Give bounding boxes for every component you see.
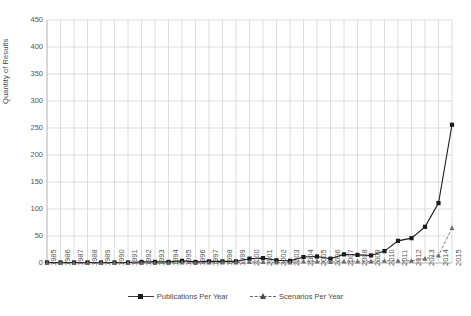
x-tick-label: 1995 <box>185 249 193 266</box>
x-tick-label: 1999 <box>239 249 247 266</box>
legend-label-scenarios: Scenarios Per Year <box>279 292 343 301</box>
x-tick-label: 2003 <box>293 249 301 266</box>
x-tick-label: 2014 <box>442 249 450 266</box>
legend-label-publications: Publications Per Year <box>157 292 228 301</box>
x-tick-label: 2008 <box>361 249 369 266</box>
x-tick-label: 2011 <box>401 250 409 266</box>
x-tick-label: 1996 <box>199 249 207 266</box>
x-tick-label: 2005 <box>320 249 328 266</box>
x-tick-label: 1992 <box>145 249 153 266</box>
x-tick-label: 2012 <box>415 249 423 266</box>
line-chart: Quantity of Results 05010015020025030035… <box>0 0 471 316</box>
legend-swatch-triangle-icon <box>250 293 276 301</box>
x-tick-label: 1993 <box>158 249 166 266</box>
x-tick-label: 2002 <box>280 249 288 266</box>
x-tick-label: 1987 <box>77 249 85 266</box>
x-tick-label: 1988 <box>91 249 99 266</box>
x-tick-label: 1991 <box>131 249 139 266</box>
x-tick-label: 2007 <box>347 249 355 266</box>
x-tick-label: 2006 <box>334 249 342 266</box>
x-tick-label: 2000 <box>253 249 261 266</box>
x-tick-label: 2013 <box>428 249 436 266</box>
legend-item-scenarios[interactable]: Scenarios Per Year <box>250 292 343 301</box>
x-axis-tick-labels: 1985198619871988198919901991199219931994… <box>0 0 471 316</box>
x-tick-label: 2001 <box>266 249 274 266</box>
x-tick-label: 1986 <box>64 249 72 266</box>
x-tick-label: 2004 <box>307 249 315 266</box>
x-tick-label: 1985 <box>50 249 58 266</box>
legend-item-publications[interactable]: Publications Per Year <box>128 292 228 301</box>
legend-swatch-square-icon <box>128 293 154 301</box>
x-tick-label: 2009 <box>374 249 382 266</box>
x-tick-label: 2015 <box>455 249 463 266</box>
x-tick-label: 2010 <box>388 249 396 266</box>
chart-legend: Publications Per Year Scenarios Per Year <box>0 292 471 301</box>
x-tick-label: 1998 <box>226 249 234 266</box>
x-tick-label: 1997 <box>212 249 220 266</box>
x-tick-label: 1990 <box>118 249 126 266</box>
x-tick-label: 1994 <box>172 249 180 266</box>
x-tick-label: 1989 <box>104 249 112 266</box>
